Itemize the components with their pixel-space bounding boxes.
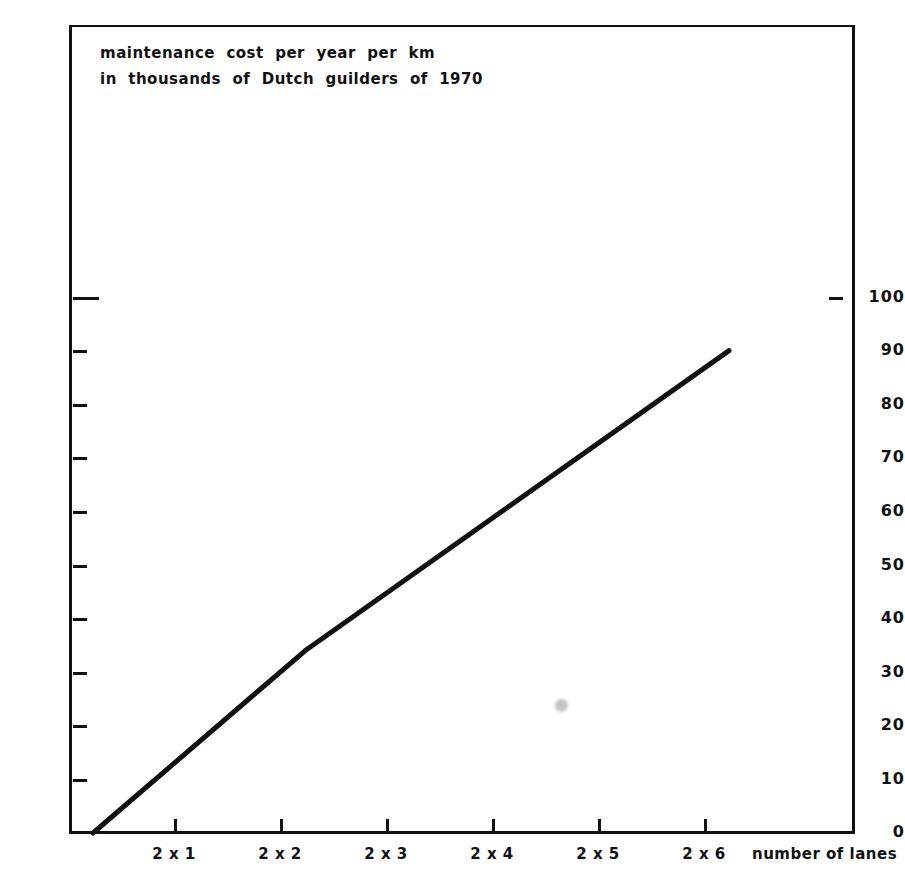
y-tick-90	[73, 350, 87, 353]
y-tick-label-90: 90	[843, 340, 905, 359]
y-tick-label-60: 60	[843, 501, 905, 520]
y-tick-label-50: 50	[843, 555, 905, 574]
x-tick-label-2: 2 x 2	[235, 845, 325, 863]
y-tick-10	[73, 779, 87, 782]
y-tick-70	[73, 457, 87, 460]
y-tick-label-80: 80	[843, 394, 905, 413]
x-tick-label-4: 2 x 4	[447, 845, 537, 863]
chart-figure: maintenance cost per year per km in thou…	[0, 0, 905, 887]
x-tick-3	[386, 819, 389, 832]
y-tick-30	[73, 672, 87, 675]
y-tick-60	[73, 511, 87, 514]
x-tick-label-1: 2 x 1	[129, 845, 219, 863]
chart-title-line-2: in thousands of Dutch guilders of 1970	[100, 66, 720, 92]
scan-smudge-artifact	[555, 699, 568, 712]
y-tick-label-100: 100	[843, 287, 905, 306]
y-tick-label-10: 10	[843, 769, 905, 788]
x-tick-5	[598, 819, 601, 832]
chart-title: maintenance cost per year per km in thou…	[100, 40, 720, 92]
y-tick-20	[73, 725, 87, 728]
x-tick-1	[174, 819, 177, 832]
x-tick-label-5: 2 x 5	[553, 845, 643, 863]
y-tick-100	[73, 297, 99, 300]
y-tick-label-20: 20	[843, 715, 905, 734]
y-tick-label-70: 70	[843, 447, 905, 466]
chart-title-line-1: maintenance cost per year per km	[100, 40, 720, 66]
y-tick-right-100	[829, 297, 843, 300]
x-tick-label-6: 2 x 6	[659, 845, 749, 863]
y-tick-40	[73, 618, 87, 621]
y-tick-80	[73, 404, 87, 407]
y-tick-label-40: 40	[843, 608, 905, 627]
y-tick-50	[73, 565, 87, 568]
x-axis-title: number of lanes	[752, 845, 897, 863]
y-tick-label-30: 30	[843, 662, 905, 681]
x-tick-6	[704, 819, 707, 832]
x-axis-line	[69, 831, 855, 834]
x-tick-4	[492, 819, 495, 832]
x-tick-label-3: 2 x 3	[341, 845, 431, 863]
x-tick-2	[280, 819, 283, 832]
plot-frame	[69, 25, 855, 833]
